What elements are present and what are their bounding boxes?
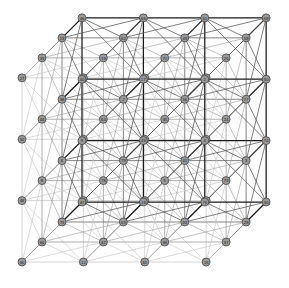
node-circle[interactable] — [119, 34, 127, 42]
lattice-node[interactable]: 36 — [161, 238, 169, 246]
lattice-node[interactable]: 35 — [161, 115, 169, 123]
lattice-node[interactable]: 66 — [38, 238, 46, 246]
lattice-node[interactable]: 48 — [18, 197, 26, 205]
lattice-node[interactable]: 76 — [201, 198, 209, 206]
node-circle[interactable] — [38, 115, 46, 123]
node-circle[interactable] — [201, 137, 209, 145]
lattice-node[interactable]: 17 — [139, 75, 147, 83]
lattice-node[interactable]: 9 — [78, 137, 86, 145]
lattice-node[interactable]: 64 — [99, 115, 107, 123]
lattice-node[interactable]: 77 — [242, 95, 250, 103]
lattice-node[interactable]: 18 — [139, 198, 147, 206]
lattice-node[interactable]: 42 — [99, 238, 107, 246]
lattice-node[interactable]: 56 — [181, 95, 189, 103]
node-circle[interactable] — [262, 14, 270, 22]
node-circle[interactable] — [38, 177, 46, 185]
node-circle[interactable] — [242, 95, 250, 103]
node-circle[interactable] — [161, 238, 169, 246]
lattice-node[interactable]: 41 — [181, 157, 189, 165]
node-circle[interactable] — [181, 218, 189, 226]
node-circle[interactable] — [99, 115, 107, 123]
node-circle[interactable] — [58, 218, 66, 226]
node-circle[interactable] — [58, 95, 66, 103]
lattice-node[interactable]: 5 — [161, 177, 169, 185]
node-circle[interactable] — [161, 54, 169, 62]
node-circle[interactable] — [181, 95, 189, 103]
lattice-node[interactable]: 65 — [139, 14, 147, 22]
lattice-node[interactable]: 28 — [242, 218, 250, 226]
node-circle[interactable] — [99, 177, 107, 185]
lattice-node[interactable]: 51 — [201, 14, 209, 22]
node-circle[interactable] — [38, 54, 46, 62]
node-circle[interactable] — [139, 137, 147, 145]
node-circle[interactable] — [222, 177, 230, 185]
node-circle[interactable] — [99, 238, 107, 246]
lattice-node[interactable]: 71 — [161, 54, 169, 62]
node-circle[interactable] — [18, 258, 26, 266]
node-circle[interactable] — [222, 54, 230, 62]
node-circle[interactable] — [262, 137, 270, 145]
lattice-node[interactable]: 33 — [38, 54, 46, 62]
lattice-node[interactable]: 19 — [99, 54, 107, 62]
lattice-node[interactable]: 69 — [119, 218, 127, 226]
lattice-node[interactable]: 60 — [262, 75, 270, 83]
node-circle[interactable] — [139, 14, 147, 22]
node-circle[interactable] — [141, 258, 149, 266]
node-circle[interactable] — [181, 34, 189, 42]
lattice-node[interactable]: 62 — [119, 34, 127, 42]
lattice-node[interactable]: 4 — [201, 137, 209, 145]
node-circle[interactable] — [181, 157, 189, 165]
lattice-node[interactable]: 6 — [58, 157, 66, 165]
lattice-node[interactable]: 68 — [262, 14, 270, 22]
node-circle[interactable] — [202, 258, 210, 266]
lattice-node[interactable]: 52 — [18, 135, 26, 143]
lattice-node[interactable]: 7 — [119, 95, 127, 103]
node-circle[interactable] — [119, 95, 127, 103]
node-circle[interactable] — [262, 75, 270, 83]
lattice-node[interactable]: 46 — [78, 14, 86, 22]
lattice-node[interactable]: 38 — [58, 95, 66, 103]
node-circle[interactable] — [161, 177, 169, 185]
lattice-node[interactable]: 63 — [181, 218, 189, 226]
node-circle[interactable] — [58, 157, 66, 165]
node-circle[interactable] — [242, 157, 250, 165]
lattice-node[interactable]: 61 — [141, 258, 149, 266]
node-circle[interactable] — [222, 238, 230, 246]
node-circle[interactable] — [78, 14, 86, 22]
lattice-node[interactable]: 40 — [78, 75, 86, 83]
node-circle[interactable] — [58, 34, 66, 42]
node-circle[interactable] — [18, 135, 26, 143]
node-circle[interactable] — [139, 198, 147, 206]
node-circle[interactable] — [78, 198, 86, 206]
lattice-node[interactable]: 78 — [99, 177, 107, 185]
lattice-node[interactable]: 24 — [222, 115, 230, 123]
lattice-node[interactable]: 27 — [18, 74, 26, 82]
node-circle[interactable] — [99, 54, 107, 62]
lattice-node[interactable]: 12 — [79, 258, 87, 266]
node-circle[interactable] — [18, 74, 26, 82]
lattice-node[interactable]: 8 — [38, 177, 46, 185]
node-circle[interactable] — [262, 198, 270, 206]
lattice-node[interactable]: 79 — [119, 157, 127, 165]
node-circle[interactable] — [18, 197, 26, 205]
node-circle[interactable] — [201, 75, 209, 83]
node-circle[interactable] — [139, 75, 147, 83]
lattice-node[interactable]: 45 — [139, 137, 147, 145]
node-circle[interactable] — [119, 157, 127, 165]
lattice-node[interactable]: 73 — [222, 177, 230, 185]
node-circle[interactable] — [119, 218, 127, 226]
lattice-node[interactable]: 50 — [18, 258, 26, 266]
node-circle[interactable] — [78, 137, 86, 145]
node-circle[interactable] — [161, 115, 169, 123]
node-circle[interactable] — [78, 75, 86, 83]
lattice-node[interactable]: 3 — [242, 157, 250, 165]
lattice-node[interactable]: 16 — [202, 258, 210, 266]
lattice-node[interactable]: 75 — [58, 218, 66, 226]
node-circle[interactable] — [201, 14, 209, 22]
node-circle[interactable] — [242, 218, 250, 226]
lattice-node[interactable]: 47 — [78, 198, 86, 206]
node-circle[interactable] — [242, 34, 250, 42]
lattice-node[interactable]: 74 — [262, 137, 270, 145]
lattice-node[interactable]: 26 — [222, 54, 230, 62]
node-circle[interactable] — [222, 115, 230, 123]
